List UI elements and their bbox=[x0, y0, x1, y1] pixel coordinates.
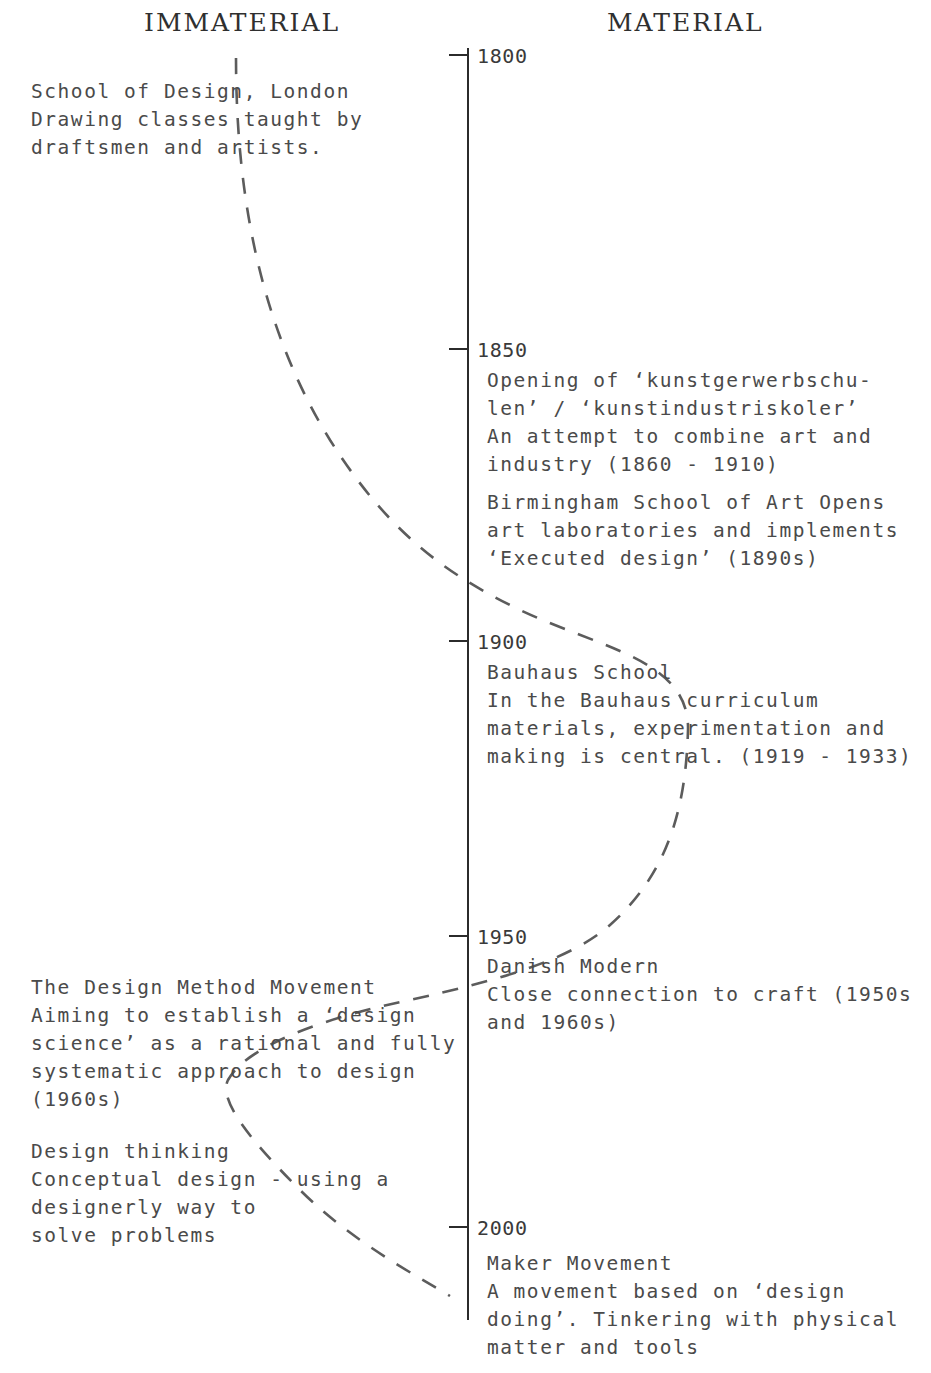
column-header-immaterial: IMMATERIAL bbox=[144, 8, 340, 37]
axis-label-1800: 1800 bbox=[477, 44, 528, 68]
timeline-diagram: IMMATERIAL MATERIAL 1800 1850 1900 1950 … bbox=[0, 0, 931, 1373]
event-danish-modern: Danish Modern Close connection to craft … bbox=[487, 953, 912, 1037]
event-school-of-design: School of Design, London Drawing classes… bbox=[31, 78, 363, 162]
axis-label-1900: 1900 bbox=[477, 630, 528, 654]
event-bauhaus-school: Bauhaus School In the Bauhaus curriculum… bbox=[487, 659, 912, 771]
axis-label-1950: 1950 bbox=[477, 925, 528, 949]
axis-label-2000: 2000 bbox=[477, 1216, 528, 1240]
axis-label-1850: 1850 bbox=[477, 338, 528, 362]
axis-tick-2000 bbox=[449, 1226, 468, 1228]
event-kunstgewerbeschulen: Opening of ‘kunstgerwerbschu- len’ / ‘ku… bbox=[487, 367, 872, 479]
timeline-axis bbox=[467, 48, 469, 1320]
column-header-material: MATERIAL bbox=[607, 8, 764, 37]
event-design-method-movement: The Design Method Movement Aiming to est… bbox=[31, 974, 456, 1114]
axis-tick-1900 bbox=[449, 640, 468, 642]
axis-tick-1950 bbox=[449, 935, 468, 937]
axis-tick-1800 bbox=[449, 54, 468, 56]
event-birmingham-school-of-art: Birmingham School of Art Opens art labor… bbox=[487, 489, 899, 573]
event-maker-movement: Maker Movement A movement based on ‘desi… bbox=[487, 1250, 899, 1362]
axis-tick-1850 bbox=[449, 348, 468, 350]
event-design-thinking: Design thinking Conceptual design - usin… bbox=[31, 1138, 390, 1250]
